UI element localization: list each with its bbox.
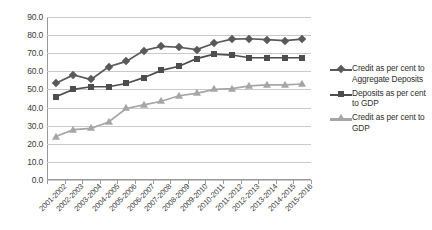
data-point-marker [229,52,235,58]
data-point-marker [246,55,252,61]
square-marker [330,89,352,100]
data-point-marker [263,81,271,88]
y-axis-tick-label: 30.0 [3,121,43,130]
data-point-marker [140,101,148,108]
chart-legend: Credit as per cent to Aggregate Deposits… [330,63,430,137]
data-point-marker [264,55,270,61]
data-point-marker [299,55,305,61]
legend-label: Credit as per cent to Aggregate Deposits [352,63,430,85]
plot-area [47,17,311,180]
data-point-marker [87,124,95,131]
data-point-marker [122,104,130,111]
data-point-marker [210,85,218,92]
legend-item: Credit as per cent to Aggregate Deposits [330,63,430,85]
data-point-marker [245,82,253,89]
y-axis-tick-label: 50.0 [3,85,43,94]
gridline [47,180,311,181]
legend-item: Credit as per cent to GDP [330,112,430,134]
y-axis-tick-label: 80.0 [3,31,43,40]
data-point-marker [141,75,147,81]
legend-label: Credit as per cent to GDP [352,112,430,134]
y-axis-tick-label: 0.0 [3,176,43,185]
data-point-marker [281,81,289,88]
data-point-marker [211,51,217,57]
data-point-marker [158,67,164,73]
y-axis-tick-label: 70.0 [3,49,43,58]
data-point-marker [123,80,129,86]
data-point-marker [298,80,306,87]
data-point-marker [88,84,94,90]
legend-item: Deposits as per cent to GDP [330,88,430,110]
data-point-marker [176,63,182,69]
data-point-marker [228,84,236,91]
line-chart: 90.080.070.060.050.040.030.020.010.00.0 … [0,0,432,230]
y-axis-tick-label: 10.0 [3,158,43,167]
y-axis-tick-label: 40.0 [3,103,43,112]
legend-label: Deposits as per cent to GDP [352,88,430,110]
data-point-marker [69,125,77,132]
data-point-marker [175,92,183,99]
y-axis-tick-label: 90.0 [3,13,43,22]
data-point-marker [194,56,200,62]
x-axis-labels: 2001-20022002-20032003-20042004-20052005… [47,182,347,230]
data-point-marker [53,94,59,100]
data-point-marker [105,118,113,125]
triangle-marker [330,113,352,124]
data-point-marker [106,84,112,90]
data-point-marker [70,86,76,92]
data-point-marker [282,55,288,61]
y-axis-tick-label: 60.0 [3,67,43,76]
data-point-marker [193,89,201,96]
y-axis-tick-label: 20.0 [3,140,43,149]
data-point-marker [157,97,165,104]
y-axis-labels: 90.080.070.060.050.040.030.020.010.00.0 [0,17,43,180]
diamond-marker [330,64,352,75]
data-point-marker [52,132,60,139]
